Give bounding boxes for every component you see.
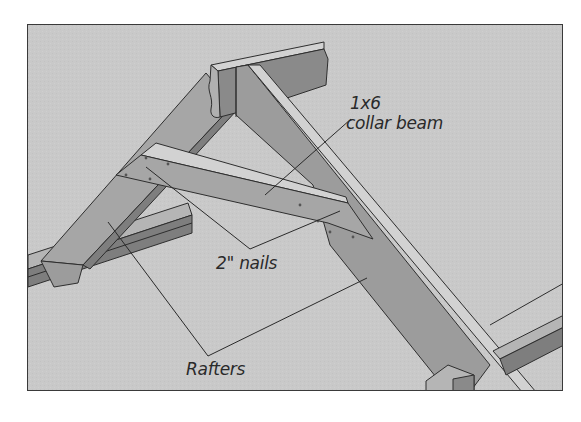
- collar-beam-callout: 1x6 collar beam: [346, 93, 443, 133]
- nails-label: 2" nails: [216, 253, 277, 273]
- collar-beam-label: collar beam: [346, 113, 443, 133]
- roof-framing-illustration: [28, 25, 563, 391]
- collar-beam-size-label: 1x6: [350, 93, 443, 113]
- rafters-label: Rafters: [186, 359, 245, 379]
- diagram-frame: 1x6 collar beam 2" nails Rafters: [27, 24, 563, 391]
